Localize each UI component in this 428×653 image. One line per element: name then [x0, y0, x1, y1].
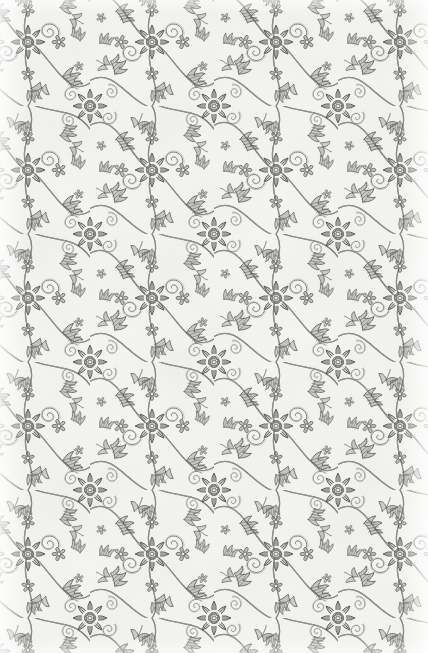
damask-pattern-sheet	[0, 0, 428, 653]
damask-ornament-layer	[0, 0, 428, 653]
